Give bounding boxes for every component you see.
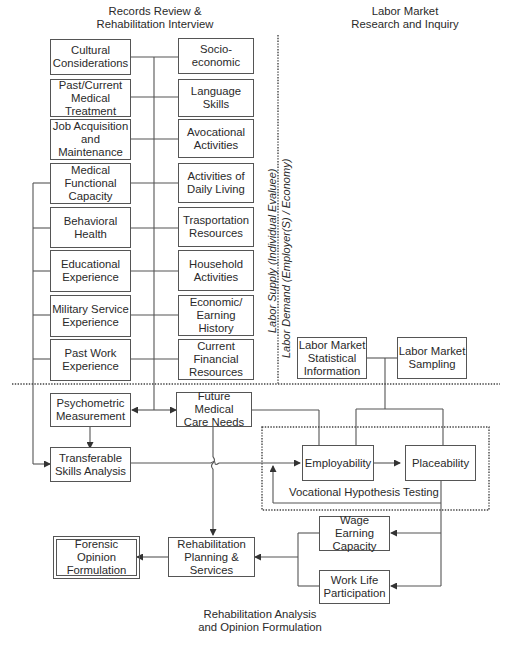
box-wage-earning-capacity: Wage Earning Capacity — [319, 516, 390, 551]
box-medical-functional-capacity: Medical Functional Capacity — [50, 163, 131, 204]
label-vocational-hypothesis-testing: Vocational Hypothesis Testing — [289, 486, 439, 498]
box-future-medical-care-needs: Future Medical Care Needs — [176, 392, 252, 427]
box-language-skills: Language Skills — [178, 79, 254, 117]
box-past-current-medical-treatment: Past/Current Medical Treatment — [50, 79, 131, 117]
box-transferable-skills-analysis: Transferable Skills Analysis — [50, 447, 131, 482]
box-avocational-activities: Avocational Activities — [178, 119, 254, 158]
box-labor-market-statistical: Labor Market Statistical Information — [297, 337, 367, 379]
box-labor-market-sampling: Labor Market Sampling — [397, 337, 467, 379]
box-transportation-resources: Trasportation Resources — [178, 207, 254, 247]
box-educational-experience: Educational Experience — [50, 250, 131, 292]
box-work-life-participation: Work Life Participation — [319, 570, 390, 604]
box-military-service: Military Service Experience — [50, 295, 131, 337]
box-cultural-considerations: Cultural Considerations — [50, 39, 131, 75]
box-behavioral-health: Behavioral Health — [50, 207, 131, 248]
heading-labor-market: Labor Market Research and Inquiry — [330, 5, 480, 31]
box-job-acquisition: Job Acquisition and Maintenance — [50, 119, 131, 160]
box-placeability: Placeability — [405, 445, 476, 481]
label-labor-supply: Labor Supply (Individual Evaluee) — [266, 169, 278, 334]
label-labor-demand: Labor Demand (Employer(S) / Economy) — [280, 159, 292, 358]
heading-records-review: Records Review & Rehabilitation Intervie… — [70, 5, 240, 31]
heading-rehabilitation-analysis: Rehabilitation Analysis and Opinion Form… — [180, 608, 340, 634]
box-household-activities: Household Activities — [178, 250, 254, 291]
box-forensic-opinion-formulation: Forensic Opinion Formulation — [56, 539, 137, 576]
box-economic-earning-history: Economic/ Earning History — [178, 295, 254, 336]
box-employability: Employability — [302, 445, 374, 481]
vocational-rehabilitation-diagram: Records Review & Rehabilitation Intervie… — [0, 0, 506, 645]
box-rehabilitation-planning: Rehabilitation Planning & Services — [168, 537, 255, 577]
box-current-financial-resources: Current Financial Resources — [178, 339, 254, 380]
box-socio-economic: Socio- economic — [178, 38, 254, 74]
box-past-work-experience: Past Work Experience — [50, 339, 131, 381]
box-psychometric-measurement: Psychometric Measurement — [50, 393, 131, 427]
box-activities-daily-living: Activities of Daily Living — [178, 163, 254, 203]
